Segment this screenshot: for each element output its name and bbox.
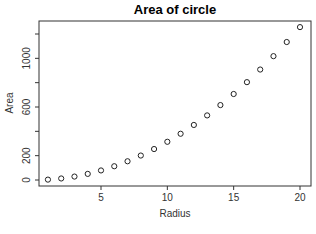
data-point [138,153,143,158]
data-point [85,171,90,176]
y-axis: 02006001000 [21,34,39,183]
data-point [125,159,130,164]
data-point [178,131,183,136]
data-point [98,168,103,173]
data-point [112,164,117,169]
x-tick-label: 10 [162,192,174,203]
x-tick-label: 5 [98,192,104,203]
x-axis: 5101520 [98,186,306,203]
data-point [45,177,50,182]
plot-frame [39,21,311,186]
y-tick-label: 1000 [21,47,32,70]
x-tick-label: 20 [294,192,306,203]
data-point [151,146,156,151]
y-axis-label: Area [4,92,15,114]
data-point [284,39,289,44]
data-point [59,176,64,181]
data-point [231,91,236,96]
data-points [45,25,302,183]
data-point [165,139,170,144]
data-point [244,80,249,85]
data-point [191,122,196,127]
data-point [271,54,276,59]
chart-title: Area of circle [134,2,216,17]
y-tick-label: 600 [21,98,32,115]
scatter-chart: Area of circle 5101520 02006001000 Radiu… [0,0,316,234]
data-point [72,174,77,179]
data-point [218,102,223,107]
x-axis-label: Radius [159,208,190,219]
data-point [205,113,210,118]
data-point [297,25,302,30]
y-tick-label: 0 [21,177,32,183]
y-tick-label: 200 [21,147,32,164]
x-tick-label: 15 [228,192,240,203]
data-point [258,67,263,72]
